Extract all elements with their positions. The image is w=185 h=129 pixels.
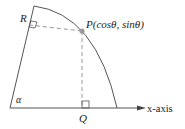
dashed-line-PR (29, 25, 82, 31)
x-axis-arrow-icon (137, 106, 146, 111)
label-x-axis: x-axis (147, 103, 173, 114)
label-P: P(cosθ, sinθ) (85, 18, 144, 31)
label-Q: Q (79, 112, 87, 124)
unit-circle-diagram: P(cosθ, sinθ) R Q α x-axis (0, 0, 185, 129)
right-angle-Q (82, 101, 89, 108)
point-P (79, 28, 84, 33)
label-alpha: α (16, 94, 22, 105)
label-R: R (19, 12, 27, 24)
